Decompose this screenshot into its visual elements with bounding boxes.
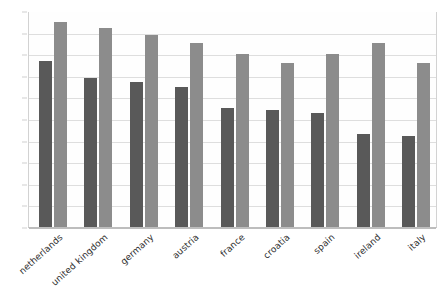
bar xyxy=(84,78,97,227)
bar xyxy=(417,63,430,227)
bar-group xyxy=(130,12,158,227)
bar xyxy=(402,136,415,227)
y-axis-tick-mark xyxy=(22,33,27,34)
bar xyxy=(130,82,143,227)
bar xyxy=(281,63,294,227)
x-axis-tick-label: ireland xyxy=(352,232,382,261)
y-axis-tick-mark xyxy=(22,98,27,99)
y-axis-tick-mark xyxy=(22,76,27,77)
y-axis-tick-mark xyxy=(22,163,27,164)
bar-group xyxy=(175,12,203,227)
bar-group xyxy=(402,12,430,227)
bar xyxy=(175,87,188,227)
x-axis-tick-label: croatia xyxy=(261,232,291,261)
bar-group xyxy=(84,12,112,227)
bar xyxy=(266,110,279,227)
x-axis-tick-label: italy xyxy=(406,232,427,253)
x-axis-tick-label: spain xyxy=(312,232,337,256)
y-axis-tick-mark xyxy=(22,184,27,185)
y-axis-tick-mark xyxy=(22,141,27,142)
bar xyxy=(311,113,324,227)
bar-group xyxy=(221,12,249,227)
bar xyxy=(54,22,67,227)
bar-group xyxy=(357,12,385,227)
x-axis-tick-label: netherlands xyxy=(17,232,65,276)
bar xyxy=(357,134,370,227)
bar xyxy=(236,54,249,227)
bar xyxy=(39,61,52,227)
bar xyxy=(145,35,158,227)
bar xyxy=(326,54,339,227)
bar-group xyxy=(311,12,339,227)
bar xyxy=(190,43,203,227)
bar xyxy=(221,108,234,227)
x-axis-tick-label: germany xyxy=(118,232,155,267)
y-axis-tick-mark xyxy=(22,120,27,121)
x-axis-labels: netherlandsunited kingdomgermanyaustriaf… xyxy=(28,229,437,291)
y-axis-tick-mark xyxy=(22,228,27,229)
plot-area xyxy=(28,12,437,228)
bar xyxy=(99,28,112,227)
y-axis-tick-mark xyxy=(22,55,27,56)
bar-chart: 0102030405060708090100 netherlandsunited… xyxy=(0,0,445,292)
x-axis-tick-label: austria xyxy=(170,232,200,261)
bar xyxy=(372,43,385,227)
y-axis-tick-mark xyxy=(22,206,27,207)
bar-group xyxy=(39,12,67,227)
y-axis-tick-mark xyxy=(22,12,27,13)
bar-group xyxy=(266,12,294,227)
x-axis-tick-label: france xyxy=(218,232,246,259)
